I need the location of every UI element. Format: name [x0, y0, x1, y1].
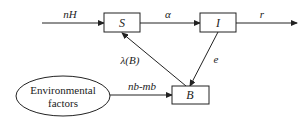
edge-label-nb-mb: nb-mb: [128, 80, 157, 92]
edge-label-r: r: [260, 8, 265, 20]
node-s-label: S: [119, 16, 125, 30]
node-b-label: B: [186, 88, 194, 102]
edge-label-nh: nH: [63, 8, 78, 20]
edge-label-e: e: [214, 53, 219, 65]
environment-label-line2: factors: [48, 97, 78, 109]
edge-label-alpha: α: [165, 8, 171, 20]
diagram: S I B Environmental factors nH α r λ(B) …: [0, 0, 307, 123]
environment-label-line1: Environmental: [30, 84, 95, 96]
environment-ellipse: [16, 76, 110, 116]
edge-label-lambda: λ(B): [120, 54, 140, 67]
